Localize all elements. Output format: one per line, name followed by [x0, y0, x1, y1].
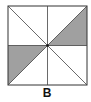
center-point: [46, 44, 48, 46]
figure-label: B: [0, 86, 91, 100]
